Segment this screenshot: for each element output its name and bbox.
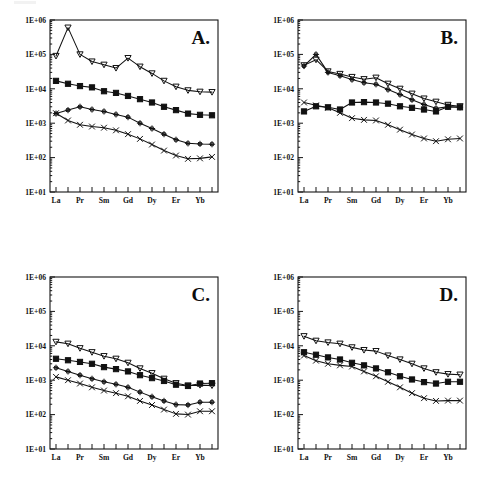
data-point-filled-square <box>149 376 154 381</box>
data-point-filled-square <box>397 374 402 379</box>
data-point-cross <box>65 377 71 383</box>
x-axis-tick-label: Dy <box>147 196 156 205</box>
panel-label: B. <box>441 27 458 48</box>
data-point-cross <box>397 384 403 390</box>
data-point-plus <box>161 131 167 137</box>
data-point-filled-square <box>77 359 82 364</box>
data-point-plus <box>385 86 391 92</box>
y-axis-tick-label: 1E+05 <box>25 307 46 316</box>
data-point-plus <box>101 108 107 114</box>
series-line <box>304 54 460 108</box>
data-point-filled-square <box>173 108 178 113</box>
data-point-filled-square <box>433 381 438 386</box>
y-axis-tick-label: 1E+02 <box>25 410 46 419</box>
data-point-filled-square <box>433 109 438 114</box>
data-series-series-4 <box>53 374 215 418</box>
data-point-filled-square <box>125 369 130 374</box>
data-point-plus <box>113 381 119 387</box>
data-point-filled-square <box>373 366 378 371</box>
y-axis-tick-label: 1E+01 <box>25 445 46 454</box>
data-point-plus <box>197 141 203 147</box>
data-point-cross <box>409 390 415 396</box>
data-point-filled-square <box>137 373 142 378</box>
x-axis-tick-label: Yb <box>443 453 453 462</box>
x-axis-tick-label: Pr <box>76 453 85 462</box>
y-axis-tick-label: 1E+03 <box>273 119 294 128</box>
data-point-filled-square <box>197 381 202 386</box>
scan-artifact <box>14 1 36 4</box>
y-axis-tick-label: 1E+01 <box>25 188 46 197</box>
y-axis-tick-label: 1E+02 <box>25 153 46 162</box>
data-point-filled-square <box>209 381 214 386</box>
data-series-series-2 <box>53 78 214 118</box>
data-point-plus <box>361 80 367 86</box>
data-point-filled-square <box>337 357 342 362</box>
data-series-series-4 <box>53 110 215 161</box>
y-axis-tick-label: 1E+06 <box>25 16 46 25</box>
panel-label: A. <box>192 27 210 48</box>
data-point-cross <box>361 369 367 375</box>
x-axis-tick-label: Sm <box>347 196 358 205</box>
data-point-filled-square <box>65 358 70 363</box>
x-axis-tick-label: Dy <box>147 453 156 462</box>
x-axis-tick-label: Yb <box>443 196 453 205</box>
panel-label: D. <box>440 284 458 305</box>
data-point-filled-square <box>313 352 318 357</box>
data-point-plus <box>149 125 155 131</box>
data-point-filled-square <box>185 111 190 116</box>
y-axis-tick-label: 1E+06 <box>273 273 294 282</box>
data-point-cross <box>137 136 143 142</box>
data-point-plus <box>53 365 59 371</box>
data-point-filled-square <box>457 379 462 384</box>
data-point-filled-square <box>89 361 94 366</box>
data-point-filled-square <box>113 90 118 95</box>
x-axis-tick-label: Gd <box>123 453 134 462</box>
x-axis-tick-label: Er <box>420 196 429 205</box>
chart-panel-a: 1E+011E+021E+031E+041E+051E+06LaPrSmGdDy… <box>0 8 249 240</box>
data-point-plus <box>409 97 415 103</box>
data-point-plus <box>89 376 95 382</box>
data-point-filled-square <box>361 100 366 105</box>
y-axis-tick-label: 1E+02 <box>273 410 294 419</box>
y-axis-tick-label: 1E+05 <box>25 50 46 59</box>
y-axis-tick-label: 1E+02 <box>273 153 294 162</box>
x-axis-tick-label: Pr <box>324 453 333 462</box>
x-axis-tick-label: La <box>300 453 309 462</box>
data-point-filled-square <box>53 78 58 83</box>
data-point-filled-square <box>65 81 70 86</box>
data-point-cross <box>65 118 71 124</box>
data-point-plus <box>137 120 143 126</box>
x-axis-tick-label: La <box>52 453 61 462</box>
x-axis-tick-label: Sm <box>347 453 358 462</box>
data-point-cross <box>373 373 379 379</box>
chart-panel-b: 1E+011E+021E+031E+041E+051E+06LaPrSmGdDy… <box>248 8 497 240</box>
x-axis-tick-label: Gd <box>123 196 134 205</box>
y-axis-tick-label: 1E+04 <box>273 342 294 351</box>
data-series-series-3 <box>301 100 462 115</box>
data-point-cross <box>173 153 179 159</box>
data-point-plus <box>77 104 83 110</box>
data-point-filled-square <box>421 107 426 112</box>
data-point-filled-square <box>445 379 450 384</box>
data-point-filled-square <box>101 89 106 94</box>
x-axis-tick-label: Gd <box>371 196 382 205</box>
data-point-filled-square <box>53 356 58 361</box>
data-point-plus <box>185 402 191 408</box>
data-point-filled-square <box>185 383 190 388</box>
x-axis-tick-label: Dy <box>395 453 404 462</box>
data-point-cross <box>149 402 155 408</box>
x-axis-tick-label: La <box>300 196 309 205</box>
data-point-filled-square <box>101 365 106 370</box>
data-point-cross <box>409 132 415 138</box>
y-axis-tick-label: 1E+06 <box>273 16 294 25</box>
data-point-filled-square <box>173 382 178 387</box>
data-point-cross <box>77 381 83 387</box>
y-axis-tick-label: 1E+01 <box>273 445 294 454</box>
data-point-plus <box>137 389 143 395</box>
data-point-plus <box>397 91 403 97</box>
data-point-plus <box>161 398 167 404</box>
x-axis-tick-label: Gd <box>371 453 382 462</box>
data-point-filled-square <box>409 105 414 110</box>
data-point-plus <box>65 368 71 374</box>
x-axis-tick-label: Dy <box>395 196 404 205</box>
